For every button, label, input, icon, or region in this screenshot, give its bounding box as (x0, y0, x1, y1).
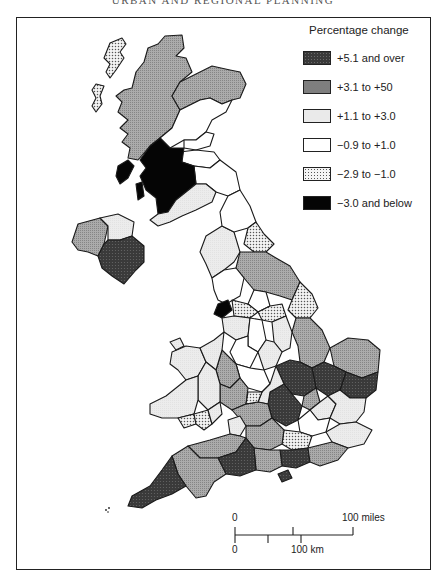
legend-swatch-c3 (303, 109, 331, 123)
region-western-isles-south (92, 84, 104, 112)
legend-item-c6: −3.0 and below (303, 188, 433, 217)
region-lincolnshire (292, 318, 330, 368)
scale-bar: 0 100 miles 0 100 km (230, 512, 390, 560)
region-isle-of-wight (278, 470, 292, 482)
region-dyfed (150, 376, 198, 418)
region-hampshire (254, 448, 282, 472)
legend-swatch-c4 (303, 138, 331, 152)
legend-title: Percentage change (309, 24, 433, 36)
region-north-yorkshire (236, 252, 300, 300)
scale-km-start: 0 (232, 544, 238, 555)
legend-swatch-c5 (303, 167, 331, 181)
region-western-isles (104, 38, 126, 78)
legend-swatch-c6 (303, 196, 331, 210)
legend-label: −3.0 and below (337, 197, 412, 209)
region-west-sussex (280, 448, 310, 468)
region-east-sussex (308, 442, 348, 466)
region-ni-east (98, 236, 144, 284)
legend-swatch-c2 (303, 80, 331, 94)
legend-label: −2.9 to −1.0 (337, 168, 396, 180)
isles-of-scilly (105, 507, 110, 513)
legend-label: +3.1 to +50 (337, 81, 393, 93)
legend-label: +1.1 to +3.0 (337, 110, 396, 122)
legend-item-c1: +5.1 and over (303, 43, 433, 72)
legend-item-c2: +3.1 to +50 (303, 72, 433, 101)
legend-item-c5: −2.9 to −1.0 (303, 159, 433, 188)
legend-item-c3: +1.1 to +3.0 (303, 101, 433, 130)
region-strathclyde-isles (116, 160, 144, 200)
region-merseyside (214, 300, 232, 318)
legend-swatch-c1 (303, 51, 331, 65)
legend-label: +5.1 and over (337, 52, 405, 64)
legend: Percentage change +5.1 and over +3.1 to … (303, 24, 433, 217)
scale-km-end: 100 km (291, 544, 324, 555)
legend-label: −0.9 to +1.0 (337, 139, 396, 151)
legend-item-c4: −0.9 to +1.0 (303, 130, 433, 159)
